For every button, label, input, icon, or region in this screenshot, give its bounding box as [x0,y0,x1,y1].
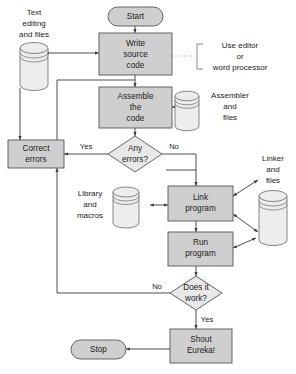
edge-label-any-errors-yes: Yes [80,142,93,151]
annotation-editor-note-line1: Use editor [222,41,259,50]
edge-link-linker-upper [233,180,258,196]
node-shout-eureka[interactable]: Shout Eureka! [170,329,232,363]
edge-run-linker [233,238,256,248]
data-store-linker [259,191,287,246]
node-does-it-work-line1: Does it [183,283,209,292]
node-does-it-work-line2: work? [184,294,207,303]
node-start[interactable]: Start [108,7,163,26]
node-link-program[interactable]: Link program [168,186,233,221]
flowchart-diagram: Text editing and files Assembler and fil… [0,0,296,374]
data-store-assembler [175,91,199,131]
edge-label-any-errors-no: No [169,142,179,151]
annotation-editor-note-line2: or [236,52,243,61]
node-start-label: Start [127,12,145,21]
data-store-assembler-label-line2: and [223,102,236,111]
data-store-text-editing-label-line1: Text [27,8,42,17]
node-does-it-work-decision[interactable]: Does it work? [170,276,222,310]
data-store-text-editing [20,43,48,91]
node-correct-errors[interactable]: Correct errors [8,140,64,168]
edge-label-does-it-work-no: No [152,282,162,291]
data-store-assembler-label-line1: Assembler [211,91,249,100]
node-write-source-code-line2: source [123,50,148,59]
edge-doesitwork-no-correct [57,168,170,293]
flowchart-canvas: Text editing and files Assembler and fil… [0,0,296,374]
data-store-assembler-label-line3: files [223,113,237,122]
node-assemble-the-code-line2: the [130,103,142,112]
node-any-errors-decision[interactable]: Any errors? [108,136,162,172]
edge-label-does-it-work-yes: Yes [201,315,214,324]
annotation-bracket [197,44,203,69]
data-store-linker-label-line3: files [266,176,280,185]
node-write-source-code-line1: Write [126,39,145,48]
node-shout-eureka-line2: Eureka! [187,346,215,355]
node-write-source-code[interactable]: Write source code [99,33,172,75]
node-run-program-line2: program [185,249,216,258]
data-store-library-label-line1: Library [78,189,102,198]
data-store-library-label-line2: and [83,200,96,209]
data-store-library-label-line3: macros [77,211,103,220]
node-stop[interactable]: Stop [71,340,126,359]
node-any-errors-line2: errors? [122,155,148,164]
node-link-program-line1: Link [193,193,209,202]
node-shout-eureka-line1: Shout [190,335,212,344]
node-write-source-code-line3: code [127,61,145,70]
node-assemble-the-code[interactable]: Assemble the code [99,87,172,128]
node-assemble-the-code-line1: Assemble [118,92,154,101]
node-run-program[interactable]: Run program [168,232,233,266]
annotation-editor-note-line3: word processor [212,63,268,72]
node-correct-errors-line2: errors [25,155,46,164]
edge-link-linker-lower [233,214,258,232]
data-store-library [113,187,139,228]
data-store-text-editing-label-line2: editing [22,19,46,28]
node-run-program-line1: Run [193,238,208,247]
node-link-program-line2: program [185,204,216,213]
node-stop-label: Stop [90,345,107,354]
node-any-errors-line1: Any [128,144,143,153]
data-store-linker-label-line2: and [266,165,279,174]
data-store-linker-label-line1: Linker [262,154,284,163]
data-store-text-editing-label-line3: and files [19,30,49,39]
node-assemble-the-code-line3: code [127,114,145,123]
node-correct-errors-line1: Correct [23,144,51,153]
